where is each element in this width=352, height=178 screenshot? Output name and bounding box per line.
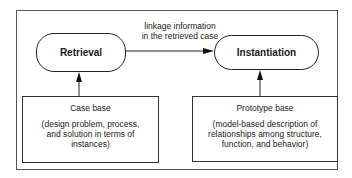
retrieval-node: Retrieval [36, 33, 126, 72]
prototype-base-description: (model-based description of relationship… [193, 119, 337, 149]
case-base-description: (design problem, process, and solution i… [23, 119, 158, 149]
prototype-base-box: Prototype base (model-based description … [192, 96, 338, 162]
prototype-base-title: Prototype base [193, 103, 337, 113]
retrieval-label: Retrieval [60, 47, 102, 58]
edge-label-line1: linkage information [128, 21, 232, 31]
case-base-box: Case base (design problem, process, and … [22, 96, 159, 163]
edge-label: linkage information in the retrieved cas… [128, 21, 232, 41]
instantiation-label: Instantiation [237, 47, 296, 58]
edge-label-line2: in the retrieved case [128, 31, 232, 41]
case-base-title: Case base [23, 103, 158, 113]
instantiation-node: Instantiation [214, 35, 319, 70]
